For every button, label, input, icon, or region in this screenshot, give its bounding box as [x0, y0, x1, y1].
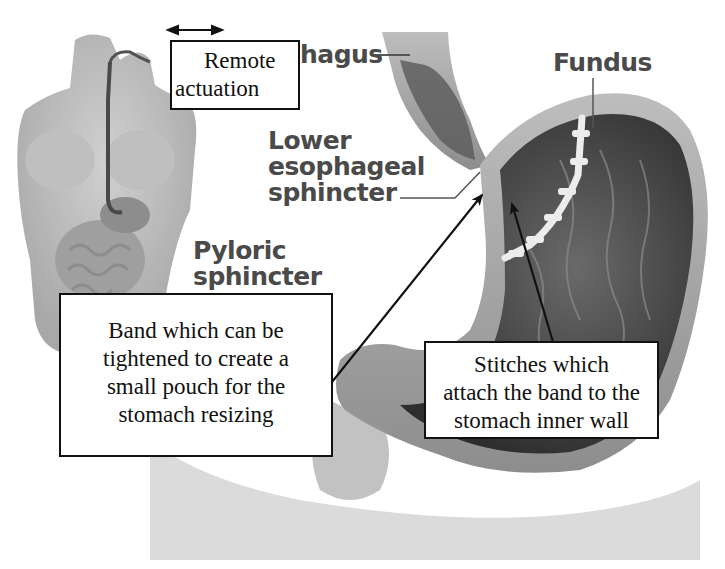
- label-fundus: Fundus: [553, 50, 652, 75]
- remote-line-2: actuation: [172, 75, 298, 103]
- band-line-2: tightened to create a: [61, 345, 331, 373]
- les-line-3: sphincter: [268, 180, 425, 206]
- pyloric-line-1: Pyloric: [193, 238, 322, 264]
- anatomy-illustration: [0, 0, 725, 569]
- label-esophagus: hagus: [300, 42, 383, 67]
- stitches-line-2: attach the band to the: [426, 379, 657, 407]
- pyloric-line-2: sphincter: [193, 264, 322, 290]
- actuation-arrow: [168, 26, 222, 34]
- diagram-stage: hagus Fundus Lower esophageal sphincter …: [0, 0, 725, 569]
- les-line-1: Lower: [268, 128, 425, 154]
- remote-line-1: Remote: [172, 47, 298, 75]
- stitches-line-3: stomach inner wall: [426, 407, 657, 435]
- band-line-4: stomach resizing: [61, 401, 331, 429]
- band-line-3: small pouch for the: [61, 373, 331, 401]
- stitches-line-1: Stitches which: [426, 351, 657, 379]
- callout-band: Band which can be tightened to create a …: [59, 293, 333, 457]
- label-pyloric-sphincter: Pyloric sphincter: [193, 238, 322, 290]
- callout-remote-actuation: Remote actuation: [170, 40, 300, 110]
- label-lower-esophageal-sphincter: Lower esophageal sphincter: [268, 128, 425, 206]
- band-line-1: Band which can be: [61, 317, 331, 345]
- callout-stitches: Stitches which attach the band to the st…: [424, 341, 659, 439]
- les-line-2: esophageal: [268, 154, 425, 180]
